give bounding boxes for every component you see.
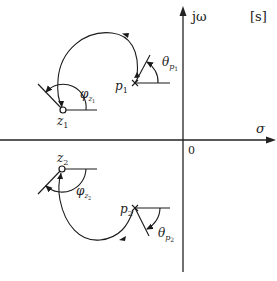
zero-z1: z1 φz1	[38, 84, 97, 130]
theta-p1-arc	[147, 62, 158, 83]
imag-axis-arrow-icon	[180, 6, 187, 16]
locus-branch-p1-z1	[58, 33, 138, 107]
origin-label: 0	[188, 144, 195, 157]
zero-z2: z2 φz2	[38, 151, 97, 201]
real-axis-arrow-icon	[266, 137, 276, 144]
locus-arrow-icon	[122, 33, 129, 38]
pole-p1: p1 θp1	[115, 55, 178, 95]
p1-label: p1	[115, 79, 128, 95]
phi-z1-label: φz1	[80, 87, 95, 104]
p2-label: p2	[120, 202, 133, 218]
root-locus-diagram: jω [s] σ 0 p1 θp1 z1 φz1 z2 φz2	[0, 0, 277, 281]
p2-departure-tangent	[135, 208, 149, 236]
theta-p1-label: θp1	[162, 55, 178, 72]
plane-label: [s]	[250, 9, 267, 24]
locus-arrow-icon	[119, 236, 126, 241]
theta-p2-label: θp2	[158, 226, 174, 243]
imag-axis-label: jω	[190, 9, 207, 24]
z1-circle-icon	[60, 107, 66, 113]
real-axis-label: σ	[256, 121, 266, 136]
z2-label: z2	[56, 151, 68, 167]
real-axis	[0, 137, 276, 144]
z1-label: z1	[56, 114, 68, 130]
imag-axis	[180, 6, 187, 272]
phi-z2-label: φz2	[76, 184, 91, 201]
